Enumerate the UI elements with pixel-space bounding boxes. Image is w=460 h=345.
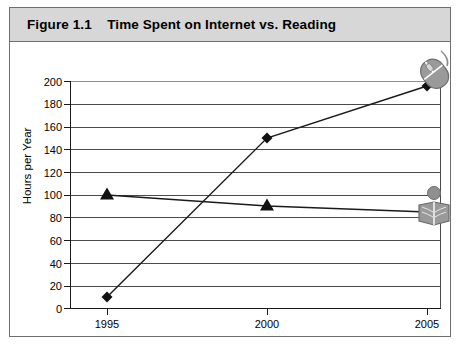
chart-series-layer (10, 42, 452, 338)
person-reading-book-icon (414, 183, 454, 233)
series-reading (100, 188, 434, 217)
figure-container: Figure 1.1 Time Spent on Internet vs. Re… (9, 7, 451, 337)
computer-mouse-icon (410, 49, 460, 99)
figure-title-bar: Figure 1.1 Time Spent on Internet vs. Re… (9, 7, 451, 42)
series-internet (102, 81, 433, 303)
chart-frame: 200 180 160 140 120 100 80 60 40 20 0 Ho… (9, 41, 451, 337)
series-internet-line (107, 86, 427, 297)
series-reading-marker-2000 (260, 199, 274, 211)
series-reading-marker-1995 (100, 188, 114, 200)
page-title: Figure 1.1 Time Spent on Internet vs. Re… (27, 17, 336, 32)
